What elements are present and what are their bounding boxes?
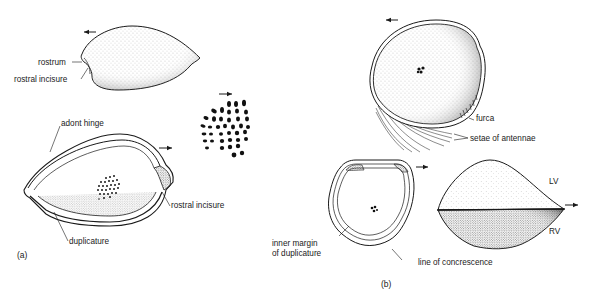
panel-label-a: (a): [17, 250, 28, 260]
label-adont-hinge: adont hinge: [61, 119, 104, 128]
panel-a-exterior-view: rostrum rostral incisure: [14, 26, 200, 90]
label-furca: furca: [476, 114, 495, 123]
ostracod-figure: rostrum rostral incisure adont hin: [0, 0, 591, 298]
panel-b: furca setae of antennae inner margin of …: [272, 20, 578, 289]
panel-a-muscle-scars-enlarged: [200, 94, 250, 157]
label-lv: LV: [549, 177, 559, 186]
label-setae-of-antennae: setae of antennae: [470, 134, 536, 143]
label-rostral-incisure-interior: rostral incisure: [171, 201, 225, 210]
panel-a: rostrum rostral incisure adont hin: [14, 26, 250, 260]
label-inner-margin-2: of duplicature: [272, 249, 322, 258]
panel-a-interior-view: adont hinge rostral incisure duplicature: [24, 119, 225, 246]
label-rostrum: rostrum: [38, 58, 66, 67]
label-rv: RV: [549, 227, 561, 236]
panel-b-dorsal-view: LV RV: [437, 160, 578, 249]
label-inner-margin-1: inner margin: [272, 239, 318, 248]
panel-label-b: (b): [381, 279, 392, 289]
label-rostral-incisure-exterior: rostral incisure: [14, 75, 68, 84]
label-line-of-concrescence: line of concrescence: [418, 258, 493, 267]
left-valve: [438, 160, 564, 210]
label-duplicature: duplicature: [69, 237, 110, 246]
panel-b-lateral-view: furca setae of antennae: [370, 20, 536, 152]
